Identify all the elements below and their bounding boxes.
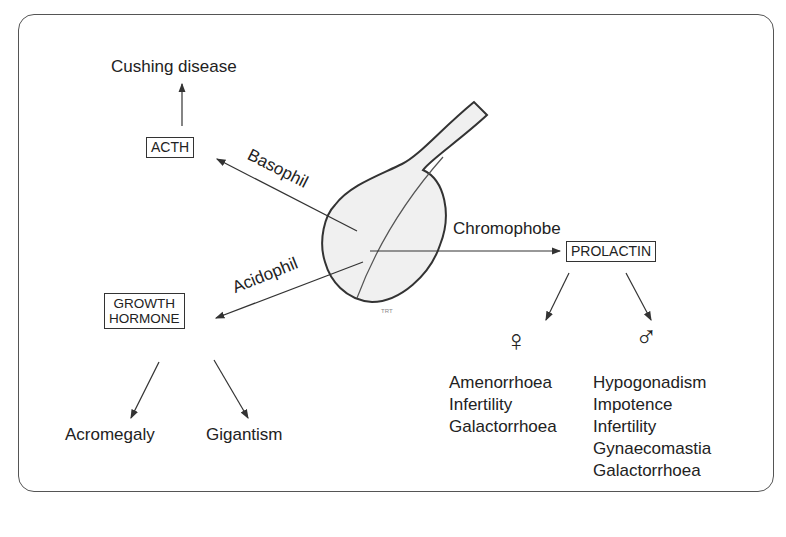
growth-hormone-line1: GROWTH — [109, 296, 180, 311]
cushing-disease-label: Cushing disease — [111, 57, 237, 77]
list-item: Gynaecomastia — [593, 438, 711, 460]
artist-signature: TRT — [381, 308, 393, 314]
list-item: Infertility — [593, 416, 711, 438]
list-item: Galactorrhoea — [449, 416, 557, 438]
acromegaly-label: Acromegaly — [65, 425, 155, 445]
list-item: Hypogonadism — [593, 372, 711, 394]
growth-hormone-box: GROWTH HORMONE — [104, 293, 185, 329]
female-effects-list: Amenorrhoea Infertility Galactorrhoea — [449, 372, 557, 438]
list-item: Galactorrhoea — [593, 460, 711, 482]
list-item: Amenorrhoea — [449, 372, 557, 394]
female-symbol-icon: ♀ — [505, 326, 528, 356]
growth-hormone-line2: HORMONE — [109, 311, 180, 326]
prolactin-box: PROLACTIN — [566, 241, 656, 262]
list-item: Impotence — [593, 394, 711, 416]
male-symbol-icon: ♂ — [635, 322, 658, 352]
gigantism-label: Gigantism — [206, 425, 283, 445]
list-item: Infertility — [449, 394, 557, 416]
pituitary-gland-icon — [322, 102, 487, 302]
male-effects-list: Hypogonadism Impotence Infertility Gynae… — [593, 372, 711, 482]
acth-box: ACTH — [146, 137, 194, 158]
chromophobe-label: Chromophobe — [453, 219, 561, 239]
